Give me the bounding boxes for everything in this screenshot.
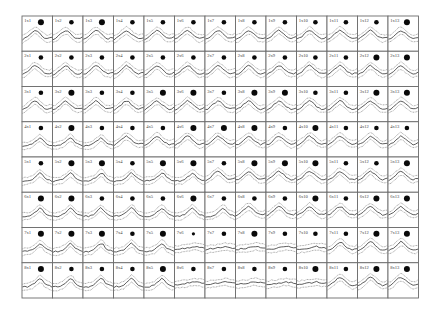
cell-label: 1x7: [207, 18, 215, 23]
cell-label: 4x8: [238, 124, 246, 129]
marker-dot: [191, 55, 196, 60]
cell-label: 8x5: [146, 265, 154, 270]
marker-dot: [404, 160, 410, 166]
marker-dot: [373, 90, 379, 96]
cell-label: 2x5: [146, 53, 154, 58]
grid-cell: 5x9: [266, 157, 297, 192]
marker-dot: [68, 90, 74, 96]
cell-label: 3x13: [390, 89, 400, 94]
grid-cell: 6x4: [114, 192, 145, 227]
cell-label: 4x1: [24, 124, 32, 129]
marker-dot: [191, 20, 196, 25]
grid-cell: 5x13: [388, 157, 419, 192]
marker-dot: [39, 161, 44, 166]
grid-cell: 5x10: [297, 157, 328, 192]
cell-label: 3x9: [268, 89, 276, 94]
cell-label: 8x12: [360, 265, 370, 270]
grid-cell: 1x13: [388, 16, 419, 51]
cell-label: 8x4: [116, 265, 124, 270]
marker-dot: [161, 196, 166, 201]
marker-dot: [312, 125, 318, 131]
cell-label: 5x1: [24, 159, 32, 164]
grid-cell: 7x2: [53, 228, 84, 263]
marker-dot: [160, 160, 166, 166]
waveform-grid: 1x11x21x31x41x51x61x71x81x91x101x111x121…: [22, 16, 419, 298]
cell-label: 6x1: [24, 194, 32, 199]
grid-cell: 7x3: [83, 228, 114, 263]
cell-label: 7x10: [299, 230, 309, 235]
grid-cell: 2x1: [22, 51, 53, 86]
marker-dot: [161, 20, 166, 25]
grid-cell: 2x13: [388, 51, 419, 86]
cell-label: 2x3: [85, 53, 93, 58]
marker-dot: [344, 161, 349, 166]
grid-cell: 1x6: [175, 16, 206, 51]
cell-label: 4x10: [299, 124, 309, 129]
marker-dot: [312, 196, 318, 202]
marker-dot: [190, 125, 196, 131]
cell-label: 1x4: [116, 18, 124, 23]
grid-cell: 1x4: [114, 16, 145, 51]
grid-cell: 6x9: [266, 192, 297, 227]
cell-label: 7x5: [146, 230, 154, 235]
marker-dot: [283, 267, 288, 272]
marker-dot: [222, 267, 227, 272]
grid-cell: 2x4: [114, 51, 145, 86]
marker-dot: [344, 196, 349, 201]
cell-label: 6x11: [329, 194, 339, 199]
cell-label: 8x10: [299, 265, 309, 270]
marker-dot: [160, 90, 166, 96]
marker-dot: [38, 19, 44, 25]
grid-cell: 3x10: [297, 87, 328, 122]
cell-label: 4x11: [329, 124, 339, 129]
grid-cell: 7x5: [144, 228, 175, 263]
marker-dot: [313, 20, 318, 25]
cell-label: 6x10: [299, 194, 309, 199]
grid-cell: 8x6: [175, 263, 206, 298]
cell-label: 6x9: [268, 194, 276, 199]
marker-dot: [130, 20, 135, 25]
cell-label: 2x1: [24, 53, 32, 58]
cell-label: 3x4: [116, 89, 124, 94]
grid-cell: 6x12: [358, 192, 389, 227]
grid-cell: 4x13: [388, 122, 419, 157]
marker-dot: [69, 55, 74, 60]
grid-cell: 3x12: [358, 87, 389, 122]
marker-dot: [282, 160, 288, 166]
marker-dot: [192, 232, 195, 235]
marker-dot: [68, 196, 74, 202]
cell-label: 1x10: [299, 18, 309, 23]
marker-dot: [99, 231, 105, 237]
cell-label: 8x9: [268, 265, 276, 270]
grid-cell: 7x1: [22, 228, 53, 263]
cell-label: 8x3: [85, 265, 93, 270]
grid-cell: 7x13: [388, 228, 419, 263]
grid-cell: 3x13: [388, 87, 419, 122]
cell-label: 5x11: [329, 159, 339, 164]
grid-cell: 2x9: [266, 51, 297, 86]
grid-cell: 3x9: [266, 87, 297, 122]
grid-cell: 4x9: [266, 122, 297, 157]
marker-dot: [404, 266, 410, 272]
marker-dot: [374, 20, 379, 25]
marker-dot: [344, 267, 349, 272]
grid-cell: 1x12: [358, 16, 389, 51]
grid-cell: 5x8: [236, 157, 267, 192]
grid-cell: 2x12: [358, 51, 389, 86]
grid-cell: 6x8: [236, 192, 267, 227]
grid-cell: 4x7: [205, 122, 236, 157]
grid-cell: 4x2: [53, 122, 84, 157]
cell-label: 6x4: [116, 194, 124, 199]
cell-label: 5x12: [360, 159, 370, 164]
grid-cell: 2x11: [327, 51, 358, 86]
cell-label: 8x1: [24, 265, 32, 270]
grid-cell: 3x1: [22, 87, 53, 122]
cell-label: 6x6: [177, 194, 185, 199]
marker-dot: [130, 55, 135, 60]
marker-dot: [160, 231, 166, 237]
marker-dot: [190, 196, 196, 202]
marker-dot: [222, 20, 227, 25]
marker-dot: [130, 161, 135, 166]
cell-label: 2x2: [55, 53, 63, 58]
grid-cell: 4x10: [297, 122, 328, 157]
